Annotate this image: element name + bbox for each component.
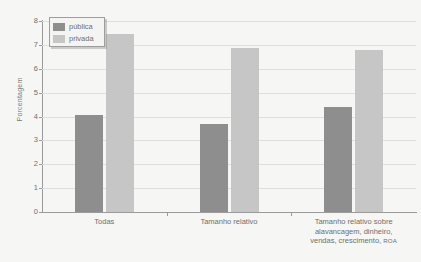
group-separator	[291, 212, 292, 216]
bar-pública-1	[200, 124, 228, 212]
bar-pública-0	[75, 115, 103, 212]
y-tick-mark	[39, 69, 42, 70]
legend-item: privada	[53, 33, 101, 44]
y-tick-label: 3	[8, 136, 38, 144]
y-tick-label: 0	[8, 208, 38, 216]
legend-swatch-privada-icon	[53, 35, 65, 43]
x-tick-label-1: Tamanho relativo	[167, 217, 292, 227]
bar-privada-1	[231, 48, 259, 212]
group-separator	[167, 212, 168, 216]
y-tick-mark	[39, 188, 42, 189]
x-label-line: Tamanho relativo sobre	[291, 217, 416, 227]
legend-label-privada: privada	[69, 35, 94, 43]
y-tick-mark	[39, 45, 42, 46]
bar-privada-0	[106, 34, 134, 212]
y-tick-label: 8	[8, 17, 38, 25]
y-tick-label: 6	[8, 65, 38, 73]
bar-pública-2	[324, 107, 352, 212]
y-tick-label: 2	[8, 160, 38, 168]
x-label-line: Todas	[42, 217, 167, 227]
legend: pública privada	[49, 17, 105, 47]
y-tick-label: 1	[8, 184, 38, 192]
bar-privada-2	[355, 50, 383, 212]
x-label-line: vendas, crescimento, ROA	[291, 236, 416, 246]
x-label-smallcaps: ROA	[383, 237, 397, 244]
y-tick-mark	[39, 117, 42, 118]
y-tick-mark	[39, 212, 42, 213]
y-tick-mark	[39, 164, 42, 165]
x-axis-line	[42, 212, 417, 213]
bar-chart: Porcentagem 012345678 TodasTamanho relat…	[0, 0, 421, 262]
x-tick-label-2: Tamanho relativo sobrealavancagem, dinhe…	[291, 217, 416, 246]
y-tick-label: 7	[8, 41, 38, 49]
y-tick-label: 5	[8, 89, 38, 97]
y-tick-label: 4	[8, 113, 38, 121]
plot-area	[42, 21, 416, 212]
x-label-line: alavancagem, dinheiro,	[291, 227, 416, 237]
x-tick-label-0: Todas	[42, 217, 167, 227]
y-tick-mark	[39, 93, 42, 94]
y-tick-mark	[39, 140, 42, 141]
legend-item: pública	[53, 21, 101, 32]
y-tick-mark	[39, 21, 42, 22]
legend-swatch-publica-icon	[53, 23, 65, 31]
legend-label-publica: pública	[69, 23, 93, 31]
x-label-line: Tamanho relativo	[167, 217, 292, 227]
